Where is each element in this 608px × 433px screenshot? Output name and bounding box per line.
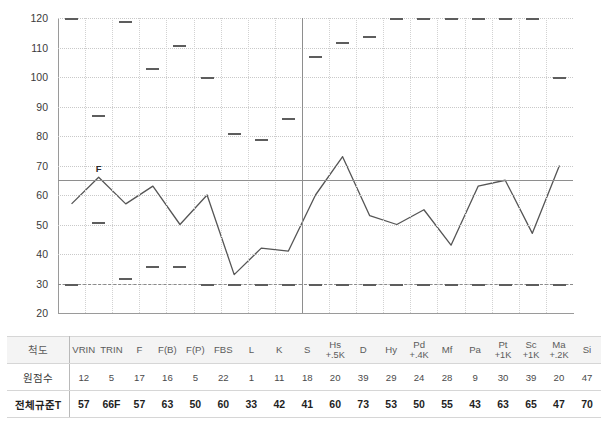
scale-header-sub: +.5K: [321, 350, 349, 361]
mmpi-profile-screen: 1201101009080706050403020F 척도VRINTRINFF(…: [0, 0, 608, 433]
scale-header-D: D: [349, 337, 377, 364]
y-axis-tick-30: 30: [14, 279, 48, 289]
gridline-x-11: [356, 18, 357, 313]
norm-t-row-cell-S: 41: [293, 391, 321, 418]
gridline-y-100: [58, 77, 573, 78]
upper-bound-markers-Hy: [363, 36, 376, 38]
lower-bound-markers-Hs +.5K: [309, 284, 322, 286]
norm-t-row-cell-Sc: 65: [517, 391, 545, 418]
raw-score-row-cell-S: 18: [293, 364, 321, 391]
gridline-x-7: [248, 18, 249, 313]
scale-header-Pa: Pa: [461, 337, 489, 364]
norm-t-row-cell-K: 42: [265, 391, 293, 418]
gridline-x-3: [139, 18, 140, 313]
row-label-raw-score-row: 원점수: [7, 364, 70, 391]
norm-t-row-cell-D: 73: [349, 391, 377, 418]
upper-bound-markers-Pd +.4K: [390, 18, 403, 20]
raw-score-row-cell-Ma: 20: [545, 364, 573, 391]
gridline-x-16: [492, 18, 493, 313]
lower-bound-markers-Pt +1K: [472, 284, 485, 286]
scale-header-VRIN: VRIN: [70, 337, 98, 364]
raw-score-row-cell-Pa: 9: [461, 364, 489, 391]
norm-t-row-cell-FBS: 60: [209, 391, 237, 418]
norm-t-row-cell-Hy: 53: [377, 391, 405, 418]
upper-bound-markers-Hs +.5K: [309, 56, 322, 58]
raw-score-row-cell-F: 17: [125, 364, 153, 391]
scale-header-Pd: Pd+.4K: [405, 337, 433, 364]
lower-bound-markers-Mf: [417, 284, 430, 286]
norm-t-row-cell-Ma: 47: [545, 391, 573, 418]
scale-header-sub: +1K: [489, 350, 517, 361]
gridline-x-4: [166, 18, 167, 313]
raw-score-row-cell-Mf: 28: [433, 364, 461, 391]
y-axis-tick-20: 20: [14, 308, 48, 318]
lower-bound-markers-F: [119, 278, 132, 280]
scale-header-FBS: FBS: [209, 337, 237, 364]
lower-bound-markers-F(P): [173, 266, 186, 268]
norm-t-row-cell-VRIN: 57: [70, 391, 98, 418]
scale-name-row: 척도VRINTRINFF(B)F(P)FBSLKSHs+.5KDHyPd+.4K…: [7, 337, 601, 364]
lower-bound-markers-FBS: [201, 284, 214, 286]
upper-bound-markers-F(B): [146, 68, 159, 70]
raw-score-row-cell-FBS: 22: [209, 364, 237, 391]
gridline-x-12: [383, 18, 384, 313]
validity-clinical-divider: [302, 18, 303, 313]
y-axis-tick-50: 50: [14, 220, 48, 230]
scale-score-table: 척도VRINTRINFF(B)F(P)FBSLKSHs+.5KDHyPd+.4K…: [7, 336, 601, 418]
norm-t-row-cell-L: 33: [237, 391, 265, 418]
scale-header-TRIN: TRIN: [97, 337, 125, 364]
norm-t-row-cell-F: 57: [125, 391, 153, 418]
scale-header-sub: +1K: [517, 350, 545, 361]
scale-header-Ma: Ma+.2K: [545, 337, 573, 364]
scale-header-F(B): F(B): [153, 337, 181, 364]
lower-bound-markers-TRIN: [92, 222, 105, 224]
gridline-x-18: [546, 18, 547, 313]
gridline-x-17: [519, 18, 520, 313]
scale-header-F: F: [125, 337, 153, 364]
y-axis-tick-110: 110: [14, 43, 48, 53]
scale-header-Hy: Hy: [377, 337, 405, 364]
raw-score-row-cell-VRIN: 12: [70, 364, 98, 391]
upper-bound-markers-K: [255, 139, 268, 141]
gridline-y-110: [58, 48, 573, 49]
upper-bound-markers-VRIN: [65, 18, 78, 20]
raw-score-row-cell-F(P): 5: [181, 364, 209, 391]
lower-bound-markers-Ma +.2K: [526, 284, 539, 286]
lower-bound-markers-S: [282, 284, 295, 286]
lower-bound-markers-L: [228, 284, 241, 286]
raw-score-row-cell-Hy: 29: [377, 364, 405, 391]
upper-bound-markers-Mf: [417, 18, 430, 20]
raw-score-row-cell-K: 11: [265, 364, 293, 391]
norm-t-row-cell-Pa: 43: [461, 391, 489, 418]
gridline-x-5: [194, 18, 195, 313]
y-axis-tick-120: 120: [14, 13, 48, 23]
raw-score-row-cell-D: 39: [349, 364, 377, 391]
norm-t-row: 전체규준T5766F576350603342416073535055436365…: [7, 391, 601, 418]
scale-header-F(P): F(P): [181, 337, 209, 364]
y-axis-tick-80: 80: [14, 131, 48, 141]
scale-header-Pt: Pt+1K: [489, 337, 517, 364]
upper-bound-markers-F(P): [173, 45, 186, 47]
raw-score-row: 원점수1251716522111182039292428930392047: [7, 364, 601, 391]
gridline-y-70: [58, 166, 573, 167]
gridline-x-8: [275, 18, 276, 313]
upper-bound-markers-L: [228, 133, 241, 135]
row-label-scale-name-row: 척도: [7, 337, 70, 364]
gridline-y-40: [58, 254, 573, 255]
norm-t-row-cell-TRIN: 66F: [97, 391, 125, 418]
scale-header-K: K: [265, 337, 293, 364]
y-axis-tick-100: 100: [14, 72, 48, 82]
norm-t-row-cell-Mf: 55: [433, 391, 461, 418]
upper-bound-markers-Pt +1K: [472, 18, 485, 20]
gridline-x-10: [329, 18, 330, 313]
reference-line-t65: [58, 180, 573, 181]
lower-bound-markers-Hy: [363, 284, 376, 286]
upper-bound-markers-FBS: [201, 77, 214, 79]
gridline-y-120: [58, 18, 573, 19]
norm-t-row-cell-F(B): 63: [153, 391, 181, 418]
upper-bound-markers-Ma +.2K: [526, 18, 539, 20]
upper-bound-markers-Si: [553, 77, 566, 79]
upper-bound-markers-F: [119, 21, 132, 23]
gridline-y-90: [58, 107, 573, 108]
lower-bound-markers-D: [336, 284, 349, 286]
